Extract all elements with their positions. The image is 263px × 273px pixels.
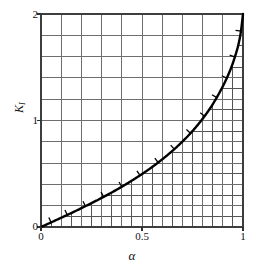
- y-tick-label-1: 1: [22, 115, 38, 126]
- figure-container: 2 1 0 0 0.5 1 α KI: [0, 0, 263, 273]
- y-axis-title: KI: [12, 102, 27, 113]
- x-tick-label-0: 0: [31, 231, 51, 242]
- x-axis-title: α: [129, 248, 136, 264]
- y-axis-title-subscript: I: [18, 102, 27, 105]
- x-tick-label-1: 1: [233, 231, 253, 242]
- y-axis-title-main: K: [12, 105, 26, 113]
- y-tick-label-2: 2: [22, 9, 38, 20]
- x-tick-label-0_5: 0.5: [132, 231, 152, 242]
